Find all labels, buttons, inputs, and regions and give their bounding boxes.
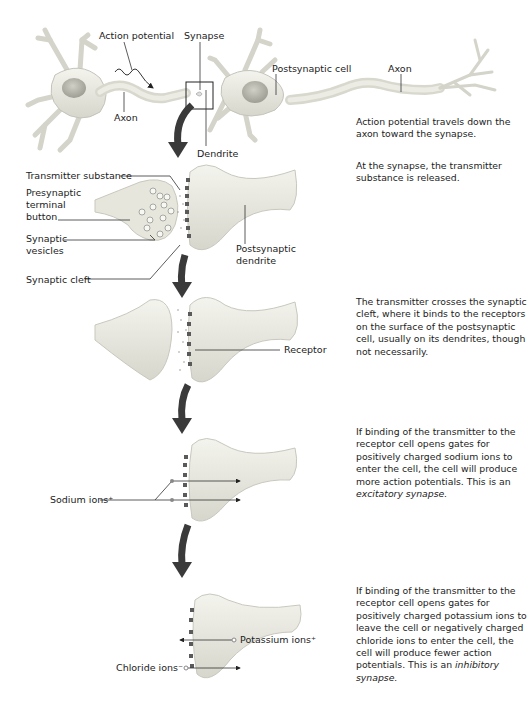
label-transmitter-substance: Transmitter substance [26,170,132,182]
description-top: Action potential travels down the axon t… [356,116,528,141]
label-presynaptic-terminal-button: Presynaptic terminal button [26,187,86,223]
description-step3-text: If binding of the transmitter to the rec… [356,426,517,487]
postsynaptic-dendrite [185,165,297,250]
label-postsynaptic-dendrite: Postsynaptic dendrite [236,243,296,267]
label-receptor: Receptor [284,344,327,356]
presynaptic-neuron [28,30,186,150]
flow-arrow-icon [172,525,192,578]
description-step2: The transmitter crosses the synaptic cle… [356,296,528,358]
description-step4-text: If binding of the transmitter to the rec… [356,585,527,670]
label-postsynaptic-cell: Postsynaptic cell [272,63,351,75]
label-chloride-ions: Chloride ions⁻ [116,662,183,674]
flow-arrow-icon [172,255,192,298]
label-synaptic-cleft: Synaptic cleft [26,274,91,286]
label-synapse: Synapse [184,30,224,42]
description-step3-italic: excitatory synapse. [356,488,447,499]
label-sodium-ions: Sodium ions⁺ [50,494,113,506]
presynaptic-terminal-2 [95,300,172,380]
postsynaptic-dendrite-3 [183,439,297,522]
label-synaptic-vesicles: Synaptic vesicles [26,233,71,257]
description-step4: If binding of the transmitter to the rec… [356,585,528,684]
presynaptic-terminal [95,180,178,241]
label-axon-right: Axon [388,63,412,75]
description-step1: At the synapse, the transmitter substanc… [356,160,528,185]
description-step3: If binding of the transmitter to the rec… [356,426,528,500]
label-axon-left: Axon [114,112,138,124]
flow-arrow-icon [168,105,192,158]
label-action-potential: Action potential [99,30,174,42]
label-potassium-ions: Potassium ions⁺ [240,634,316,646]
flow-arrow-icon [172,385,192,434]
postsynaptic-dendrite-2 [187,298,298,382]
label-dendrite: Dendrite [197,148,238,160]
